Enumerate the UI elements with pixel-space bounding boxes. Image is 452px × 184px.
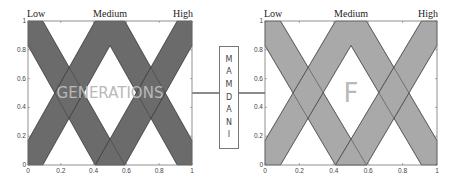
y-tick-label: 0.8 [254,46,263,53]
x-tick-label: 0.2 [295,167,304,174]
y-tick-label: 0.6 [254,75,263,82]
y-tick-label: 1 [259,17,263,24]
mf-label-high: High [418,8,438,19]
mf-label-low: Low [264,8,283,19]
x-tick-label: 0.8 [398,167,407,174]
x-tick-label: 0 [263,167,267,174]
y-tick-label: 0.2 [254,132,263,139]
x-tick-label: 1 [435,167,439,174]
y-tick-label: 0.4 [254,103,263,110]
mf-label-medium: Medium [334,8,368,19]
right-plot-canvas: 00.20.40.60.8100.20.40.60.81LowMediumHig… [0,0,452,184]
x-tick-label: 0.6 [364,167,373,174]
right-membership-plot: 00.20.40.60.8100.20.40.60.81LowMediumHig… [0,0,452,184]
variable-name-label: F [344,78,359,108]
x-tick-label: 0.4 [329,167,338,174]
y-tick-label: 0 [259,161,263,168]
